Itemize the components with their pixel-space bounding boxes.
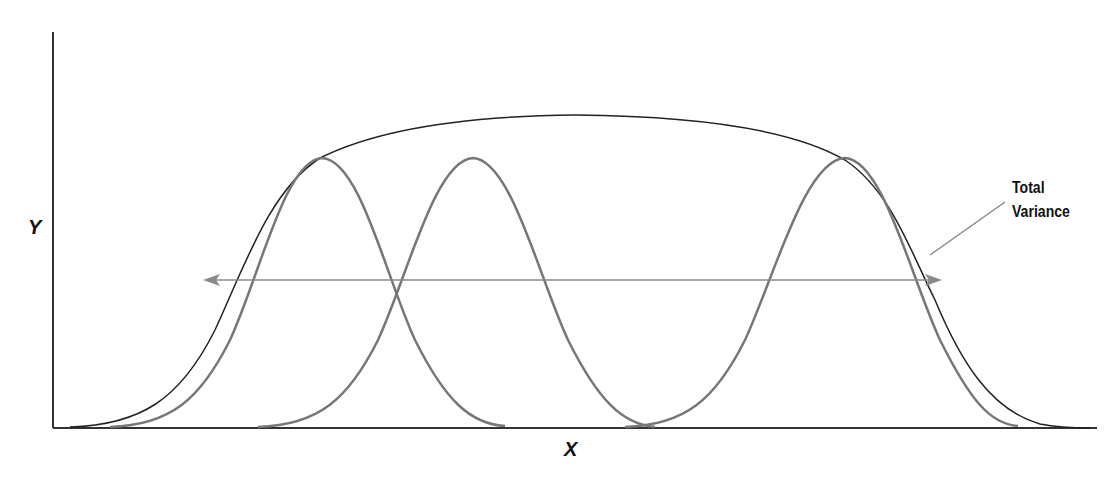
component-curve-1 <box>110 158 505 427</box>
annotation-leader-line <box>930 202 1005 255</box>
total-envelope-curve <box>70 115 1090 428</box>
annotation-line-1: Total <box>1012 176 1070 200</box>
component-curve-3 <box>625 158 1018 427</box>
annotation-line-2: Variance <box>1012 200 1070 224</box>
component-curve-2 <box>258 158 655 427</box>
total-variance-annotation: Total Variance <box>1012 176 1070 224</box>
y-axis-label: Y <box>28 216 41 239</box>
variance-diagram <box>0 0 1114 484</box>
x-axis-label: X <box>564 438 577 461</box>
